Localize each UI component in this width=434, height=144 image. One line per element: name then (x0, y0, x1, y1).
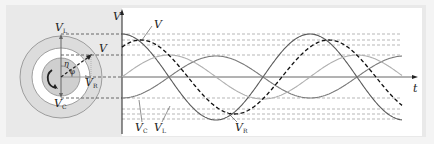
vl-curve-label: VL (154, 121, 166, 134)
v-label: V (99, 42, 108, 55)
phi-label: φ (70, 68, 75, 76)
phasor-diagram: VL V VR VC η φ (20, 21, 108, 118)
v-leader (142, 26, 152, 40)
eta-label: η (64, 59, 69, 68)
v-axis-label: V (113, 10, 122, 23)
diagram-canvas: VL V VR VC η φ V t V VC VL (0, 0, 434, 144)
v-curve-label: V (154, 18, 163, 31)
t-axis-arrow-icon (412, 75, 418, 79)
vc-curve-label: VC (135, 121, 148, 134)
vl-label: VL (55, 21, 67, 34)
t-axis-label: t (413, 82, 418, 95)
vr-curve-label: VR (235, 121, 248, 134)
